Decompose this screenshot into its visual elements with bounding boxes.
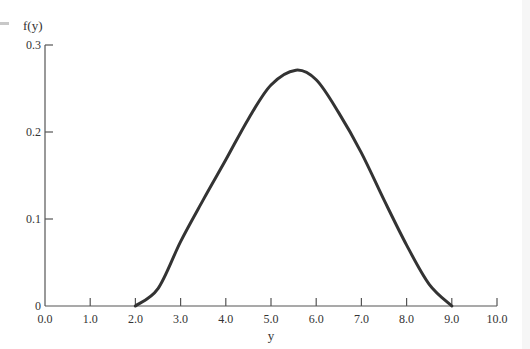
x-tick-label: 3.0: [173, 312, 188, 326]
x-tick-label: 6.0: [309, 312, 324, 326]
x-tick-label: 4.0: [218, 312, 233, 326]
x-tick-label: 5.0: [264, 312, 279, 326]
x-tick-label: 8.0: [399, 312, 414, 326]
y-tick-label: 0.2: [26, 125, 41, 139]
y-tick-label: 0.3: [26, 38, 41, 52]
y-axis-ticks: 00.10.20.3: [26, 38, 53, 313]
x-tick-label: 0.0: [38, 312, 53, 326]
x-tick-label: 1.0: [83, 312, 98, 326]
x-tick-label: 7.0: [354, 312, 369, 326]
y-tick-label: 0: [35, 299, 41, 313]
x-axis-title: y: [268, 328, 275, 343]
density-chart: 0.01.02.03.04.05.06.07.08.09.010.0 00.10…: [0, 0, 530, 349]
y-axis-title: f(y): [23, 18, 43, 33]
x-tick-label: 2.0: [128, 312, 143, 326]
density-curve: [135, 70, 451, 306]
x-tick-label: 10.0: [487, 312, 508, 326]
y-tick-label: 0.1: [26, 212, 41, 226]
x-tick-label: 9.0: [444, 312, 459, 326]
x-axis-ticks: 0.01.02.03.04.05.06.07.08.09.010.0: [38, 298, 508, 326]
